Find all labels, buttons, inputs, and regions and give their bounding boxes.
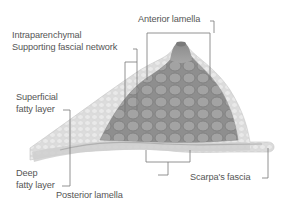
label-scarpas-fascia: Scarpa's fascia <box>190 172 251 183</box>
label-deep-fatty-layer-line1: Deep <box>16 168 38 179</box>
label-superficial-fatty-layer-line1: Superficial <box>16 92 58 103</box>
leader-intraparenchymal-tick <box>133 49 137 62</box>
leader-posterior-lamella-stem <box>158 162 168 175</box>
label-deep-fatty-layer-line2: fatty layer <box>16 180 55 191</box>
label-intraparenchymal-line2: Supporting fascial network <box>12 42 117 53</box>
label-anterior-lamella: Anterior lamella <box>138 14 200 25</box>
label-posterior-lamella: Posterior lamella <box>56 190 123 201</box>
label-intraparenchymal-line1: Intraparenchymal <box>12 30 81 41</box>
leader-scarpas-fascia <box>262 148 268 178</box>
leader-anterior-lamella-tick <box>210 21 214 33</box>
label-superficial-fatty-layer-line2: fatty layer <box>16 104 55 115</box>
breast-anatomy-diagram: Anterior lamella Intraparenchymal Suppor… <box>0 0 294 210</box>
